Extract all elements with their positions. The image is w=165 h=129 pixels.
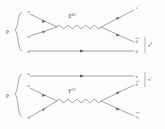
- arrow-positron-out: [116, 17, 120, 20]
- label-d-in: d: [28, 49, 31, 54]
- label-antid-out-bottom: d: [136, 81, 140, 87]
- y-boson-propagator: [57, 99, 101, 102]
- feynman-diagram-figure: p u u d X4/3 e+: [0, 0, 165, 129]
- label-d-in-bottom: d: [28, 115, 31, 120]
- svg-text:νe: νe: [136, 114, 140, 121]
- arrow-antid-out: [116, 33, 120, 36]
- arrow-antineutrino-out: [116, 107, 120, 110]
- arrow-u-mid-in: [42, 31, 46, 33]
- proton-brace-bottom: [15, 74, 22, 117]
- proton-label-bottom: p: [6, 92, 9, 98]
- label-u-mid-in-bottom: u: [28, 83, 31, 88]
- proton-brace-top: [15, 12, 22, 51]
- x-boson-propagator: [57, 25, 101, 28]
- pion-label-bottom: π+: [148, 76, 152, 82]
- diagram-top: p u u d X4/3 e+: [6, 4, 152, 54]
- label-u-out-bottom: u: [136, 74, 139, 79]
- label-positron-out: e+: [136, 4, 140, 10]
- arrow-d-spectator: [80, 49, 84, 52]
- line-d-in-bottom: [30, 101, 57, 117]
- feynman-diagram-canvas: p u u d X4/3 e+: [0, 0, 165, 129]
- y-boson-label: Y1/3: [68, 88, 76, 94]
- arrow-u-spectator: [80, 74, 84, 77]
- arrow-antid-out-bottom: [116, 92, 120, 95]
- svg-text:d: d: [136, 39, 139, 44]
- label-antineutrino-out: νe: [136, 113, 140, 121]
- svg-text:d: d: [136, 82, 139, 87]
- label-u-mid-in: u: [28, 34, 31, 39]
- label-d-out: d: [136, 49, 139, 54]
- x-boson-label: X4/3: [67, 13, 76, 19]
- label-u-top-in: u: [28, 9, 31, 14]
- label-u-top-in-bottom: u: [28, 71, 31, 76]
- label-antid-out: d: [136, 38, 140, 44]
- pion-label-top: π0: [148, 42, 152, 48]
- diagram-bottom: p u u d Y1/3 u: [6, 71, 152, 121]
- line-u-top-in: [30, 14, 57, 27]
- proton-label-top: p: [6, 28, 9, 34]
